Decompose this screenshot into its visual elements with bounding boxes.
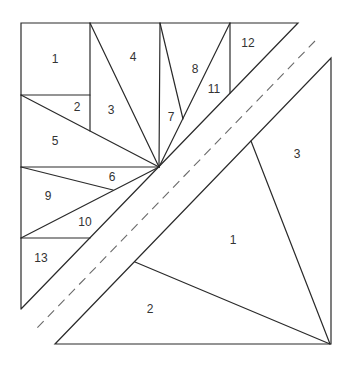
upper-piece-label-4: 4: [130, 50, 137, 64]
divider-7-8: [160, 23, 183, 119]
upper-piece-label-8: 8: [192, 62, 199, 76]
divider-1-2: [135, 262, 330, 344]
seam-dashed-line: [37, 41, 315, 328]
upper-piece-label-5: 5: [52, 134, 59, 148]
pattern-diagram: 12345678910111213123: [0, 0, 350, 365]
lower-piece-label-3: 3: [294, 147, 301, 161]
lower-outline: [55, 58, 331, 344]
piece-labels: 12345678910111213123: [34, 36, 300, 316]
divider-6-9: [21, 167, 113, 190]
upper-piece-label-3: 3: [108, 103, 115, 117]
upper-piece-label-1: 1: [52, 52, 59, 66]
lower-section: [55, 58, 331, 344]
upper-piece-label-9: 9: [45, 189, 52, 203]
lower-piece-label-2: 2: [147, 302, 154, 316]
upper-piece-label-13: 13: [34, 251, 48, 265]
lower-piece-label-1: 1: [230, 233, 237, 247]
upper-section: [21, 23, 298, 309]
upper-piece-label-7: 7: [168, 110, 175, 124]
upper-piece-label-11: 11: [208, 82, 221, 96]
divider-3-4: [90, 23, 159, 167]
upper-piece-label-6: 6: [109, 170, 116, 184]
divider-v160: [159, 23, 160, 167]
upper-piece-label-12: 12: [241, 36, 255, 50]
upper-piece-label-10: 10: [78, 215, 92, 229]
upper-piece-label-2: 2: [74, 100, 81, 114]
divider-1-3: [251, 141, 330, 344]
